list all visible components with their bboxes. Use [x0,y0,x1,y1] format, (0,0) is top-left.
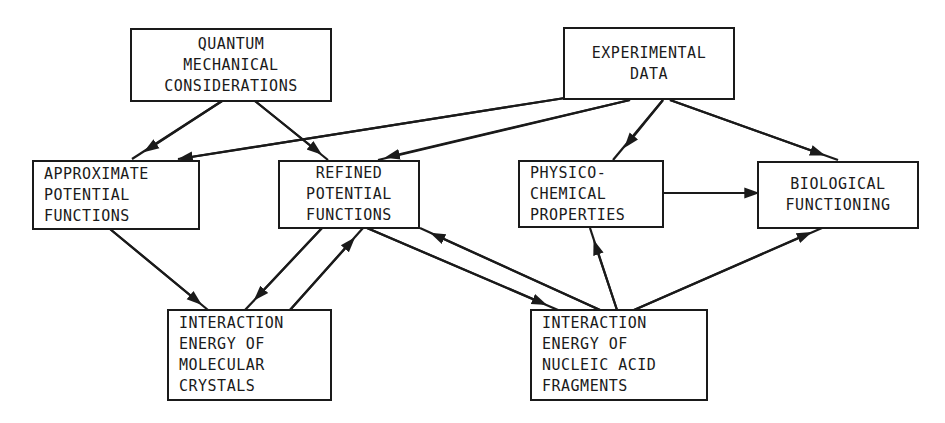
node-label-line: INTERACTION [542,313,647,334]
node-interaction-energy-molecular-crystals: INTERACTION ENERGY OF MOLECULAR CRYSTALS [167,309,332,401]
edge-nucleic-physico [590,228,617,310]
edge-quantum-refined [255,101,328,160]
node-physico-chemical-properties: PHYSICO- CHEMICAL PROPERTIES [518,160,664,228]
node-label-line: ENERGY OF [542,334,628,355]
node-label-line: POTENTIAL [44,185,130,206]
node-label-line: NUCLEIC ACID [542,355,656,376]
node-label-line: CHEMICAL [530,184,606,205]
node-label-line: MECHANICAL [183,55,278,76]
node-label-line: BIOLOGICAL [790,174,885,195]
node-label-line: QUANTUM [198,34,265,55]
edge-experimental-refined [378,100,630,160]
edge-quantum-approximate [132,101,222,159]
node-quantum-mechanical-considerations: QUANTUM MECHANICAL CONSIDERATIONS [130,28,332,102]
node-label-line: FRAGMENTS [542,376,628,397]
node-interaction-energy-nucleic-acid-fragments: INTERACTION ENERGY OF NUCLEIC ACID FRAGM… [530,309,708,401]
node-label-line: MOLECULAR [179,355,265,376]
node-label-line: PHYSICO- [530,163,606,184]
edge-crystals-refined [290,228,363,310]
edge-approximate-crystals [110,229,208,310]
edge-experimental-physico [613,100,663,160]
node-experimental-data: EXPERIMENTAL DATA [563,27,735,100]
edge-nucleic-biological [634,228,822,310]
node-label-line: INTERACTION [179,313,284,334]
edge-nucleic-refined [420,228,600,310]
node-label-line: DATA [630,64,668,85]
node-label-line: EXPERIMENTAL [592,43,706,64]
node-label-line: PROPERTIES [530,205,625,226]
node-label-line: POTENTIAL [306,184,392,205]
node-label-line: FUNCTIONS [44,206,130,227]
edge-refined-crystals [245,228,322,310]
node-label-line: CRYSTALS [179,376,255,397]
node-label-line: FUNCTIONING [786,195,891,216]
node-biological-functioning: BIOLOGICAL FUNCTIONING [757,161,919,229]
node-label-line: APPROXIMATE [44,164,149,185]
node-label-line: ENERGY OF [179,334,265,355]
node-label-line: FUNCTIONS [306,205,392,226]
diagram-canvas: QUANTUM MECHANICAL CONSIDERATIONS EXPERI… [0,0,945,423]
edge-refined-nucleic [367,228,558,310]
node-label-line: CONSIDERATIONS [164,76,297,97]
node-approximate-potential-functions: APPROXIMATE POTENTIAL FUNCTIONS [32,160,200,230]
node-label-line: REFINED [316,163,383,184]
edge-experimental-biological [670,100,838,160]
node-refined-potential-functions: REFINED POTENTIAL FUNCTIONS [278,160,420,229]
